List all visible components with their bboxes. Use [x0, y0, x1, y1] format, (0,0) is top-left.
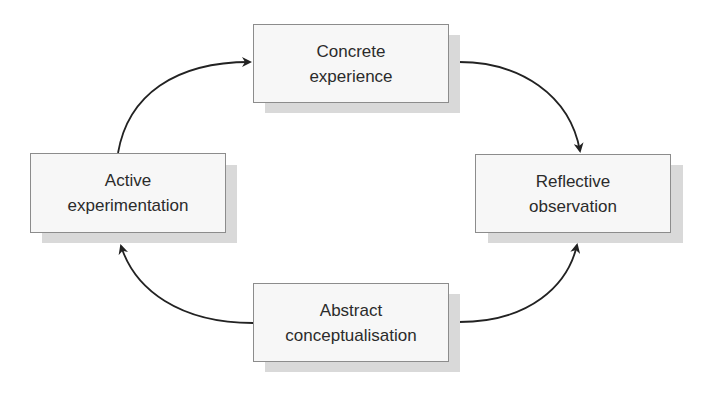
arrow-top-to-right: [459, 62, 580, 151]
node-label-line2: observation: [529, 194, 617, 219]
node-box: Active experimentation: [30, 153, 226, 233]
node-label-line2: experimentation: [68, 193, 189, 218]
node-label-line2: experience: [309, 64, 392, 89]
arrow-left-to-top: [118, 62, 250, 153]
node-label-line1: Abstract: [320, 298, 382, 323]
node-box: Reflective observation: [475, 154, 671, 233]
node-box: Abstract conceptualisation: [253, 283, 449, 362]
arrow-bottom-to-left: [121, 246, 253, 323]
node-label-line1: Reflective: [536, 169, 611, 194]
node-label-line1: Active: [105, 168, 151, 193]
node-label-line2: conceptualisation: [285, 323, 416, 348]
arrow-bottom-to-right: [459, 245, 577, 322]
node-label-line1: Concrete: [317, 39, 386, 64]
node-box: Concrete experience: [253, 24, 449, 103]
